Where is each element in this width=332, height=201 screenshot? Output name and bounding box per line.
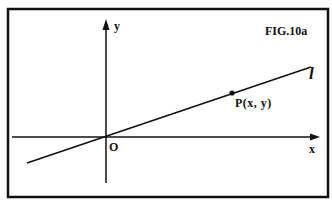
line-l-label: l	[309, 64, 314, 84]
y-axis-arrow-icon	[103, 19, 110, 30]
line-l	[27, 67, 311, 163]
point-p	[229, 90, 234, 95]
x-axis-arrow-icon	[310, 134, 320, 141]
y-axis-label: y	[114, 19, 120, 34]
x-axis-label: x	[309, 142, 315, 157]
figure-label: FIG.10a	[265, 24, 307, 39]
origin-label: O	[109, 140, 118, 155]
point-p-label: P(x, y)	[235, 96, 272, 111]
